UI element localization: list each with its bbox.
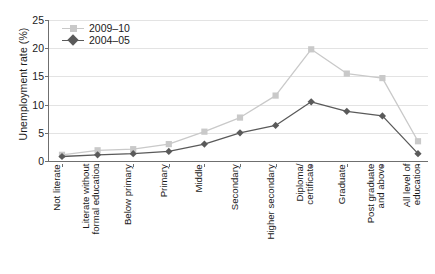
data-point-marker[interactable] [379, 75, 385, 81]
series-line-1 [62, 49, 418, 154]
series-line-2 [62, 102, 418, 157]
legend-marker-diamond-icon [62, 34, 84, 46]
legend-marker-square-icon [62, 22, 84, 34]
x-axis-label: Primary [159, 164, 169, 272]
x-axis-label: Middle [194, 164, 204, 272]
x-tick-mark [240, 164, 241, 167]
data-point-marker[interactable] [344, 70, 350, 76]
x-axis-label: Graduate [337, 164, 347, 272]
x-axis-label-line: education [412, 164, 422, 272]
x-axis-label-line: Higher secondary [265, 164, 275, 272]
unemployment-rate-line-chart: Unemployment rate (%) 0510152025 2009–10… [0, 0, 435, 274]
x-axis-label: Secondary [230, 164, 240, 272]
y-tick-label: 20 [32, 43, 44, 54]
x-axis-label-line: Middle [194, 164, 204, 272]
data-point-marker[interactable] [165, 148, 172, 155]
data-point-marker[interactable] [415, 138, 421, 144]
x-axis-label: Not literate [52, 164, 62, 272]
data-point-marker[interactable] [236, 129, 243, 136]
x-axis-label: All level ofeducation [402, 164, 423, 272]
x-tick-mark [133, 164, 134, 167]
x-axis-label-line: and above [377, 164, 387, 272]
data-point-marker[interactable] [272, 122, 279, 129]
data-point-marker[interactable] [343, 108, 350, 115]
data-point-marker[interactable] [201, 140, 208, 147]
data-point-marker[interactable] [273, 92, 279, 98]
x-axis-label-line: formal education [92, 164, 102, 272]
legend-item-2004-05[interactable]: 2004–05 [62, 34, 130, 46]
legend: 2009–10 2004–05 [62, 22, 130, 46]
legend-label-2004-05: 2004–05 [89, 34, 130, 46]
x-axis-label-line: Below primary [123, 164, 133, 272]
x-axis-label-line: Graduate [337, 164, 347, 272]
x-axis-label: Diploma/certificate [295, 164, 316, 272]
x-axis-line [48, 161, 428, 162]
x-axis-label-line: Secondary [230, 164, 240, 272]
x-tick-mark [204, 164, 205, 167]
x-axis-label: Higher secondary [265, 164, 275, 272]
y-tick-label: 10 [32, 100, 44, 111]
x-axis-label: Post graduateand above [366, 164, 387, 272]
x-axis-label: Literate withoutformal education [82, 164, 103, 272]
data-point-marker[interactable] [237, 114, 243, 120]
y-tick-mark [45, 161, 48, 162]
y-tick-label: 5 [38, 128, 44, 139]
legend-label-2009-10: 2009–10 [89, 22, 130, 34]
legend-item-2009-10[interactable]: 2009–10 [62, 22, 130, 34]
x-axis-label-line: Primary [159, 164, 169, 272]
y-axis-title: Unemployment rate (%) [17, 9, 29, 159]
data-point-marker[interactable] [201, 129, 207, 135]
data-point-marker[interactable] [308, 46, 314, 52]
x-axis-label: Below primary [123, 164, 133, 272]
x-tick-mark [62, 164, 63, 167]
y-tick-label: 0 [38, 156, 44, 167]
x-axis-label-line: All level of [402, 164, 412, 272]
x-axis-label-line: Not literate [52, 164, 62, 272]
data-point-marker[interactable] [308, 98, 315, 105]
y-tick-label: 25 [32, 15, 44, 26]
data-point-marker[interactable] [166, 141, 172, 147]
y-tick-label: 15 [32, 71, 44, 82]
x-axis-category-labels: Not literateLiterate withoutformal educa… [48, 164, 428, 272]
x-axis-label-line: certificate [305, 164, 315, 272]
